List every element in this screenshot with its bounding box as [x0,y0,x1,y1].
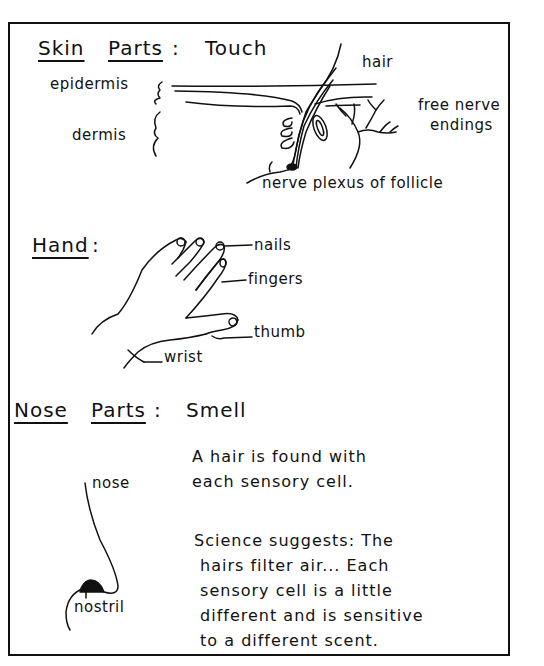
label-nose: nose [92,476,130,491]
nose-paragraph-2: Science suggests: The hairs filter air..… [194,528,424,653]
label-free-nerve-line1: free nerve [418,98,500,113]
nose-parts-heading-word: Parts [91,400,146,420]
skin-heading-colon: : [172,38,180,58]
nose-heading-word: Nose [14,400,68,420]
dermis-brace [153,112,160,156]
label-nostril: nostril [74,600,124,615]
label-wrist: wrist [164,350,203,365]
label-nerve-plexus: nerve plexus of follicle [262,176,443,191]
hand-heading-colon: : [92,235,100,255]
skin-heading-sense: Touch [205,38,267,58]
label-nails: nails [254,238,291,253]
label-epidermis: epidermis [50,77,129,92]
label-free-nerve-line2: endings [430,118,493,133]
label-hair: hair [362,55,393,70]
hand-heading: Hand [32,235,89,255]
epidermis-brace [155,82,162,104]
nose-paragraph-1: A hair is found with each sensory cell. [192,444,367,494]
skin-parts-heading-word: Parts [108,38,163,58]
nose-heading-sense: Smell [186,400,247,420]
label-thumb: thumb [254,325,306,340]
nose-heading-colon: : [154,400,162,420]
skin-heading-word: Skin [38,38,85,58]
label-dermis: dermis [72,128,126,143]
label-fingers: fingers [248,272,303,287]
